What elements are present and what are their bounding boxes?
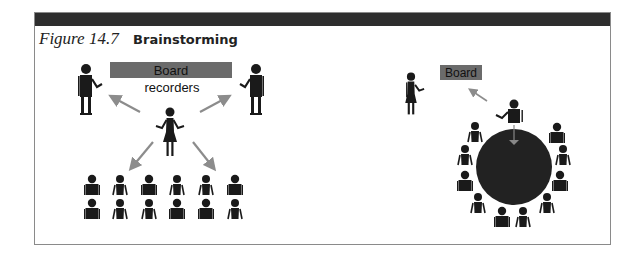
left-scene: Board recorders xyxy=(78,62,264,219)
arrow-to-left-recorder xyxy=(114,98,140,112)
right-scene: Board xyxy=(405,65,570,227)
brainstorming-diagram: Board recorders Board xyxy=(0,0,639,255)
audience-grid xyxy=(84,175,243,219)
facilitator-figure xyxy=(156,108,184,157)
recorder-right-scene-figure xyxy=(405,73,424,115)
facilitator-table-figure xyxy=(496,100,523,124)
recorder-right-figure xyxy=(240,64,264,115)
arrow-to-audience-right xyxy=(193,142,212,166)
board-left-label: Board xyxy=(154,63,189,78)
arrow-to-audience-left xyxy=(133,142,153,166)
recorders-label: recorders xyxy=(145,80,200,95)
arrow-to-board-right xyxy=(472,91,487,101)
arrow-to-right-recorder xyxy=(200,98,226,112)
recorder-left-figure xyxy=(78,64,102,115)
board-right-label: Board xyxy=(445,66,477,80)
